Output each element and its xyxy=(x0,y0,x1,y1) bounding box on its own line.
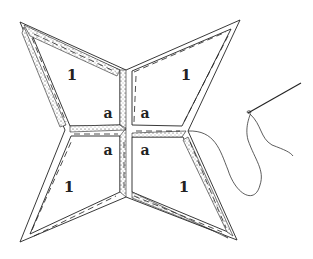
seam-strip xyxy=(70,125,126,132)
patch-label-bottom-right: 1 xyxy=(179,180,189,195)
star-drawing xyxy=(0,0,313,259)
star-quilt-diagram: 1 1 1 1 a a a a xyxy=(0,0,313,259)
seam-label-top-right: a xyxy=(140,106,149,120)
patch-label-bottom-left: 1 xyxy=(64,180,74,195)
needle-icon xyxy=(247,83,301,113)
patch-label-top-right: 1 xyxy=(181,68,191,83)
seam-label-top-left: a xyxy=(103,106,112,120)
seam-label-bottom-right: a xyxy=(140,143,149,157)
seam-strip xyxy=(120,70,126,128)
seam-label-bottom-left: a xyxy=(103,143,112,157)
seam-strip xyxy=(120,128,126,197)
seam-strip xyxy=(132,131,186,137)
star-outline xyxy=(20,20,240,242)
patch-label-top-left: 1 xyxy=(67,68,77,83)
